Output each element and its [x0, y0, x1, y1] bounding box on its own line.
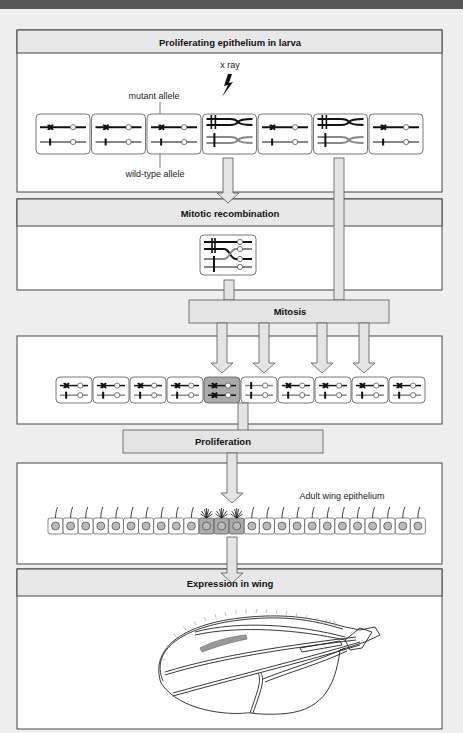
cell-replicated	[203, 114, 257, 154]
nucleus	[414, 522, 422, 530]
nucleus	[399, 522, 407, 530]
cell-outline	[241, 377, 277, 403]
locus-marker	[189, 383, 194, 388]
cell-outline	[258, 114, 312, 154]
nucleus	[308, 522, 316, 530]
nucleus	[278, 522, 286, 530]
nucleus	[82, 522, 90, 530]
locus-marker	[152, 393, 157, 398]
cell	[92, 114, 146, 154]
nucleus	[97, 522, 105, 530]
locus-marker	[126, 139, 131, 144]
cell-outline	[92, 114, 146, 154]
locus-marker	[374, 393, 379, 398]
cell	[204, 377, 240, 403]
nucleus	[142, 522, 150, 530]
nucleus	[384, 522, 392, 530]
locus-marker	[78, 393, 83, 398]
panel-daughters	[17, 336, 442, 424]
cell-outline	[278, 377, 314, 403]
nucleus	[187, 522, 195, 530]
locus-marker	[189, 393, 194, 398]
panel-title-proliferation: Proliferation	[195, 436, 251, 447]
cell-replicated	[314, 114, 368, 154]
nucleus	[293, 522, 301, 530]
cell-outline	[389, 377, 425, 403]
locus-marker	[226, 383, 231, 388]
locus-marker	[300, 383, 305, 388]
cell-outline	[352, 377, 388, 403]
cell	[130, 377, 166, 403]
cell	[315, 377, 351, 403]
cell	[241, 377, 277, 403]
cell	[56, 377, 92, 403]
locus-marker	[226, 393, 231, 398]
nucleus	[112, 522, 120, 530]
locus-marker	[71, 125, 76, 130]
nucleus	[233, 522, 241, 530]
nucleus	[263, 522, 271, 530]
cell	[93, 377, 129, 403]
nucleus	[354, 522, 362, 530]
cell	[147, 114, 201, 154]
cell	[352, 377, 388, 403]
nucleus	[248, 522, 256, 530]
cell	[36, 114, 90, 154]
panel-title-mitosis: Mitosis	[274, 306, 307, 317]
locus-marker	[404, 139, 409, 144]
locus-marker	[337, 393, 342, 398]
locus-marker	[411, 393, 416, 398]
xray-label: x ray	[220, 60, 240, 70]
cell-outline	[56, 377, 92, 403]
nucleus	[218, 522, 226, 530]
locus-marker	[182, 139, 187, 144]
cell-outline	[369, 114, 423, 154]
larva-cell-row	[36, 114, 423, 154]
shaft-recombined-cell	[224, 280, 234, 300]
cell	[167, 377, 203, 403]
cell-outline	[167, 377, 203, 403]
locus-marker	[115, 383, 120, 388]
locus-marker	[263, 383, 268, 388]
nucleus	[127, 522, 135, 530]
shaft-proliferation	[238, 403, 248, 433]
cell	[389, 377, 425, 403]
locus-marker	[182, 125, 187, 130]
cell-outline	[147, 114, 201, 154]
cell-outline	[204, 377, 240, 403]
cell-outline	[130, 377, 166, 403]
locus-marker	[300, 393, 305, 398]
nucleus	[67, 522, 75, 530]
nucleus	[203, 522, 211, 530]
locus-marker	[71, 139, 76, 144]
locus-marker	[237, 256, 242, 261]
wildtype-allele-label: wild-type allele	[124, 169, 184, 179]
locus-marker	[293, 125, 298, 130]
locus-marker	[237, 264, 242, 269]
cell-outline	[36, 114, 90, 154]
locus-marker	[404, 125, 409, 130]
locus-marker	[293, 139, 298, 144]
nucleus	[52, 522, 60, 530]
nucleus	[172, 522, 180, 530]
nucleus	[323, 522, 331, 530]
nucleus	[157, 522, 165, 530]
panel-recombination: Mitotic recombination	[17, 199, 442, 290]
locus-marker	[115, 393, 120, 398]
locus-marker	[126, 125, 131, 130]
panel-title-recombination: Mitotic recombination	[181, 208, 280, 219]
recombination-cell	[200, 235, 256, 275]
locus-marker	[237, 246, 242, 251]
locus-marker	[237, 239, 242, 244]
locus-marker	[78, 383, 83, 388]
mitotic-recombination-diagram: Proliferating epithelium in larva x ray …	[0, 0, 463, 733]
nucleus	[338, 522, 346, 530]
cell-outline	[315, 377, 351, 403]
nucleus	[369, 522, 377, 530]
cell-outline	[93, 377, 129, 403]
adult-wing-epithelium-label: Adult wing epithelium	[299, 491, 384, 501]
locus-marker	[152, 383, 157, 388]
cell	[278, 377, 314, 403]
cell	[258, 114, 312, 154]
mutant-allele-label: mutant allele	[128, 91, 179, 101]
